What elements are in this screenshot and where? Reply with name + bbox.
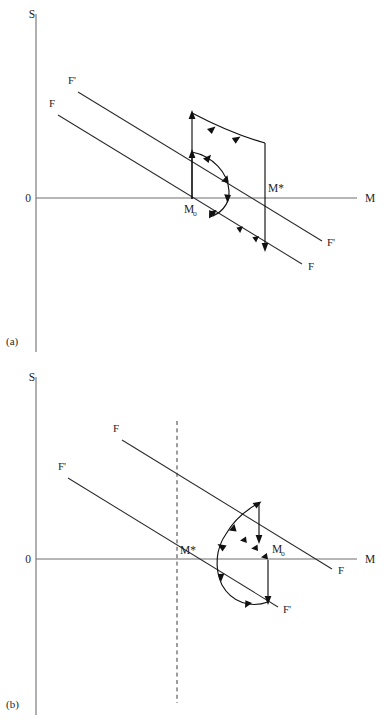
- arrow-upleft-icon: [251, 545, 258, 552]
- arrow-right-icon: [207, 126, 216, 134]
- arrow-down-icon: [256, 535, 263, 544]
- panel-label-b: (b): [6, 698, 19, 711]
- label-f-right-b: F: [338, 564, 344, 576]
- panel-label-a: (a): [6, 335, 19, 348]
- trajectory-a-inner-bow: [192, 152, 229, 217]
- arrow-upright-icon: [253, 502, 262, 509]
- trajectory-b-bottom-bow: [222, 585, 268, 604]
- label-m-star-b: M*: [180, 544, 196, 556]
- label-f-prime-left-a: F': [68, 74, 76, 86]
- label-m-star-a: M*: [268, 182, 284, 194]
- label-m-initial-sub-a: o: [193, 209, 197, 218]
- label-s-axis-a: S: [29, 8, 35, 20]
- arrow-down-icon: [262, 243, 269, 252]
- label-f-left-a: F: [49, 97, 55, 109]
- panel-b-plot: F F' F F' S 0 M M* M o (b): [0, 363, 390, 726]
- label-m-initial-sub-b: o: [281, 549, 285, 558]
- label-m-axis-b: M: [365, 553, 375, 565]
- label-f-left-b: F: [113, 422, 119, 434]
- arrow-downright-icon: [240, 537, 247, 544]
- label-origin-a: 0: [25, 192, 31, 204]
- label-origin-b: 0: [25, 553, 31, 565]
- label-f-prime-right-b: F': [283, 603, 291, 615]
- arrow-down-icon: [265, 596, 272, 605]
- arrow-right-icon: [232, 137, 241, 144]
- panel-b: F F' F F' S 0 M M* M o (b): [0, 363, 390, 726]
- arrow-down-icon: [224, 194, 231, 203]
- arrow-downright-icon: [252, 236, 259, 242]
- arrow-downright-icon: [236, 227, 243, 233]
- schedule-f-b: [122, 440, 332, 569]
- schedule-f-prime-a: [78, 92, 322, 241]
- label-f-prime-right-a: F': [327, 236, 335, 248]
- trajectory-a-top-bow: [192, 113, 265, 143]
- label-f-right-a: F: [308, 260, 314, 272]
- figure-root: F' F F' F S 0 M M o M* (a): [0, 0, 390, 726]
- panel-a: F' F F' F S 0 M M o M* (a): [0, 0, 390, 363]
- label-s-axis-b: S: [29, 371, 35, 383]
- label-m-axis-a: M: [365, 192, 375, 204]
- arrow-up-icon: [189, 149, 196, 158]
- label-f-prime-left-b: F': [58, 460, 66, 472]
- panel-a-plot: F' F F' F S 0 M M o M* (a): [0, 0, 390, 363]
